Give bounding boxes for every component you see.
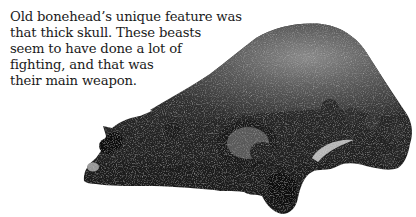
caption-line: their main weapon. (10, 73, 222, 89)
caption-line: fighting, and that was (10, 57, 222, 73)
caption-line: Old bonehead’s unique feature was (10, 9, 222, 25)
caption-line: that thick skull. These beasts (10, 25, 222, 41)
page: Old bonehead’s unique feature was that t… (0, 0, 416, 217)
caption-line: seem to have done a lot of (10, 41, 222, 57)
caption-text: Old bonehead’s unique feature was that t… (10, 9, 222, 89)
